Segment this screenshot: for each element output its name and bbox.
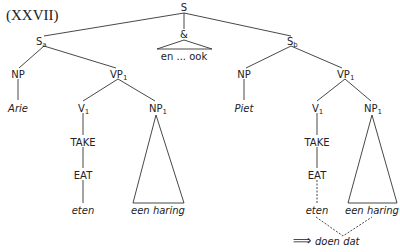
node-np1-left: NP1: [149, 103, 167, 116]
node-eat-left: EAT: [74, 170, 93, 181]
leaf-en-ook: en ... ook: [161, 51, 208, 62]
node-take-left: TAKE: [69, 137, 95, 148]
edge-vp-np-left: [118, 79, 155, 101]
leaf-eten-left: eten: [72, 205, 95, 216]
leaf-een-haring-left: een haring: [131, 205, 185, 216]
node-np-right: NP: [237, 69, 251, 80]
node-v-left: V1: [78, 103, 89, 116]
edge-vp-np-right: [345, 79, 371, 101]
edge-sa-np: [19, 46, 44, 68]
node-eat-right: EAT: [308, 170, 327, 181]
merge-dashed-lines: [316, 217, 372, 236]
leaf-een-haring-right: een haring: [345, 205, 399, 216]
leaf-piet: Piet: [235, 103, 255, 114]
double-arrow-icon: ⟹: [293, 233, 312, 248]
edge-sb-np: [246, 46, 291, 68]
leaf-arie: Arie: [7, 103, 28, 114]
edge-s-sb: [184, 13, 291, 36]
edge-s-sa: [44, 13, 184, 36]
node-np-left: NP: [11, 69, 25, 80]
edge-vp-v-left: [83, 79, 118, 101]
node-take-right: TAKE: [303, 137, 329, 148]
np-triangle-left: [133, 115, 184, 203]
replacement-doen-dat: doen dat: [315, 236, 361, 247]
edge-sa-vp: [44, 46, 116, 68]
edge-sb-vp: [291, 46, 342, 68]
tree-edges: [18, 13, 397, 236]
edge-vp-v-right: [317, 79, 345, 101]
syntax-tree-diagram: (XXVII) S & en ... ook Sa Sb NP VP1 NP V…: [0, 0, 400, 252]
conj-triangle: [157, 40, 212, 49]
node-sa: Sa: [36, 36, 47, 49]
node-conj: &: [180, 29, 188, 40]
np-triangle-right: [348, 115, 397, 203]
leaf-eten-right: eten: [306, 205, 329, 216]
node-vp-left: VP1: [110, 69, 127, 82]
node-np1-right: NP1: [364, 103, 382, 116]
node-v-right: V1: [312, 103, 323, 116]
node-s: S: [181, 2, 187, 13]
example-number: (XXVII): [6, 7, 58, 24]
